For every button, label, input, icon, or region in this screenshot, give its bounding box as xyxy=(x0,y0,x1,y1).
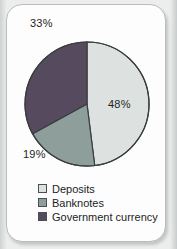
pie-label-government-currency: 33% xyxy=(30,17,53,29)
legend-label-deposits: Deposits xyxy=(52,183,95,195)
legend-item-government-currency[interactable]: Government currency xyxy=(38,210,166,223)
page-background: 33% 48% 19% Deposits Banknotes Governmen… xyxy=(0,0,177,249)
legend-label-banknotes: Banknotes xyxy=(52,197,104,209)
legend-swatch-government-currency xyxy=(38,212,47,221)
legend-swatch-banknotes xyxy=(38,198,47,207)
legend-label-government-currency: Government currency xyxy=(52,211,158,223)
pie-chart: 33% 48% 19% xyxy=(0,0,177,178)
legend-swatch-deposits xyxy=(38,184,47,193)
chart-legend: Deposits Banknotes Government currency xyxy=(38,182,166,224)
legend-item-deposits[interactable]: Deposits xyxy=(38,182,166,195)
legend-item-banknotes[interactable]: Banknotes xyxy=(38,196,166,209)
pie-label-banknotes: 19% xyxy=(23,148,46,160)
pie-label-deposits: 48% xyxy=(108,98,131,110)
